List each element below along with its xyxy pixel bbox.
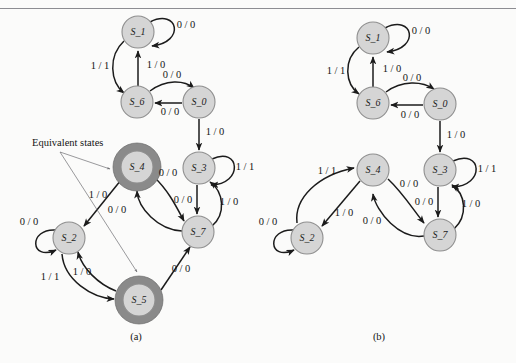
state-node-S_7[interactable]: S_7 [182,216,214,248]
state-node-S_4-equivalent[interactable]: S_4 [113,143,161,191]
state-label: S_0 [433,98,448,109]
state-label: S_7 [433,229,449,240]
state-label: S_1 [131,26,146,37]
state-label: S_4 [130,161,145,172]
panel-b-caption: (b) [373,331,386,343]
state-node-S_6[interactable]: S_6 [357,87,389,119]
edge-label: 0 / 0 [177,19,196,30]
state-node-S_0[interactable]: S_0 [183,86,215,118]
state-label: S_4 [366,164,381,175]
state-node-S_3[interactable]: S_3 [183,152,215,184]
edge-label: 1 / 0 [206,126,225,137]
edge-label: 0 / 0 [400,178,419,189]
state-node-S_6[interactable]: S_6 [121,86,153,118]
edge-S_4-to-S_2 [84,180,121,226]
edge-label: 0 / 0 [159,167,178,178]
edge-S_4-to-S_2 [322,181,360,226]
edge-S_6-to-S_0 [386,83,434,92]
state-label: S_6 [366,97,381,108]
state-label: S_2 [300,232,315,243]
edge-label: 1 / 1 [327,65,346,76]
edge-label: 0 / 0 [161,106,180,117]
edge-label: 0 / 0 [172,263,191,274]
state-node-S_5-equivalent[interactable]: S_5 [115,276,163,324]
edge-label: 1 / 1 [41,271,60,282]
panel-a-nodes: S_1 S_6 S_0 S_3 S_7 [53,16,215,324]
edge-label: 0 / 0 [401,109,420,120]
equivalent-states-annotation: Equivalent states [32,137,103,148]
edge-label: 0 / 0 [108,204,127,215]
state-diagram-svg: S_1 S_6 S_0 S_3 S_7 [0,0,516,363]
state-label: S_3 [433,164,448,175]
edge-label: 0 / 0 [412,25,431,36]
state-label: S_6 [130,96,145,107]
edge-S_1-to-S_6 [348,47,359,94]
panel-b: S_1 S_6 S_0 S_3 S_4 [259,22,497,343]
state-node-S_2[interactable]: S_2 [53,222,85,254]
edge-label: 0 / 0 [20,216,39,227]
state-label: S_5 [132,294,147,305]
state-node-S_0[interactable]: S_0 [424,88,456,120]
edge-label: 1 / 0 [383,63,402,74]
edge-label: 1 / 0 [447,129,466,140]
edge-label: 1 / 0 [462,198,481,209]
edge-label: 1 / 0 [220,196,239,207]
state-node-S_1[interactable]: S_1 [357,22,389,54]
edge-label: 1 / 0 [73,266,92,277]
panel-b-edge-labels: 0 / 0 1 / 1 1 / 0 0 / 0 0 / 0 1 / 0 1 / … [259,25,497,227]
edge-label: 0 / 0 [403,72,422,83]
figure-page: S_1 S_6 S_0 S_3 S_7 [0,0,516,363]
leader-line-to-S_4 [60,152,110,169]
panel-a-caption: (a) [130,331,142,343]
edge-label: 0 / 0 [259,216,278,227]
edge-S_6-to-S_0 [150,82,194,91]
edge-label: 1 / 0 [89,189,108,200]
state-label: S_1 [366,32,381,43]
state-node-S_4[interactable]: S_4 [357,154,389,186]
state-label: S_3 [192,162,207,173]
edge-label: 1 / 1 [478,163,497,174]
panel-a: S_1 S_6 S_0 S_3 S_7 [20,16,255,343]
edge-label: 0 / 0 [363,215,382,226]
edge-label: 1 / 0 [335,207,354,218]
edge-label: 1 / 1 [91,60,110,71]
state-label: S_2 [62,232,77,243]
state-label: S_0 [192,96,207,107]
edge-label: 0 / 0 [415,196,434,207]
state-node-S_7[interactable]: S_7 [424,219,456,251]
state-label: S_7 [191,226,207,237]
edge-label: 0 / 0 [174,194,193,205]
edge-label: 1 / 1 [236,161,255,172]
state-node-S_1[interactable]: S_1 [122,16,154,48]
state-node-S_3[interactable]: S_3 [424,154,456,186]
edge-S_1-to-S_6 [113,41,124,93]
edge-label: 1 / 1 [318,165,337,176]
edge-label: 0 / 0 [163,69,182,80]
state-node-S_2[interactable]: S_2 [291,222,323,254]
